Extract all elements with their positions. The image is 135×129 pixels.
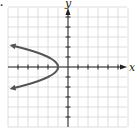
curve-arrow-icon — [10, 85, 17, 91]
y-axis-label: y — [64, 0, 72, 10]
x-axis-arrow-icon — [120, 65, 127, 70]
x-axis-label: x — [129, 61, 135, 74]
problem-marker: . — [0, 0, 3, 8]
parabola-graph: x y . — [0, 0, 135, 129]
axes — [8, 8, 127, 127]
curve-arrow-icon — [10, 43, 17, 49]
